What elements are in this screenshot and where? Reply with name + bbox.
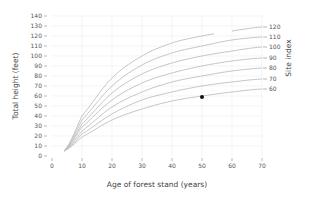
y-tick-label: 50: [34, 102, 42, 109]
site-index-curve-120: [64, 34, 214, 151]
y-tick-label: 80: [34, 72, 42, 79]
x-tick-label: 70: [258, 162, 266, 169]
y-tick-label: 30: [34, 122, 42, 129]
highlight-point: [200, 95, 204, 99]
y-tick-label: 20: [34, 132, 42, 139]
y-tick-label: 70: [34, 82, 42, 89]
site-index-chart: 0102030405060708090100110120130140 01020…: [0, 0, 310, 197]
x-tick-label: 60: [228, 162, 236, 169]
site-index-labels: 12011010090807060: [263, 23, 281, 92]
y-axis-ticks: 0102030405060708090100110120130140: [31, 12, 47, 159]
y-tick-label: 120: [31, 32, 43, 39]
y-tick-label: 140: [31, 12, 43, 19]
x-tick-label: 50: [198, 162, 206, 169]
y-tick-label: 60: [34, 92, 42, 99]
x-axis-ticks: 010203040506070: [50, 158, 266, 169]
y-tick-label: 90: [34, 62, 42, 69]
y-tick-label: 100: [31, 52, 43, 59]
y-tick-label: 40: [34, 112, 42, 119]
x-tick-label: 20: [108, 162, 116, 169]
y2-axis-title: Site index: [284, 39, 293, 77]
y-tick-label: 10: [34, 142, 42, 149]
site-index-label: 120: [269, 23, 281, 30]
y-axis-title: Total height (feet): [11, 53, 20, 121]
site-index-curve-120: [232, 27, 262, 31]
site-index-label: 60: [269, 85, 277, 92]
x-tick-label: 10: [78, 162, 86, 169]
site-index-label: 80: [269, 64, 277, 71]
y-tick-label: 130: [31, 22, 43, 29]
y-tick-label: 0: [38, 152, 42, 159]
site-index-label: 70: [269, 75, 277, 82]
x-axis-title: Age of forest stand (years): [107, 180, 207, 189]
site-index-label: 100: [269, 43, 281, 50]
site-index-label: 90: [269, 54, 277, 61]
site-index-label: 110: [269, 33, 281, 40]
y-tick-label: 110: [31, 42, 43, 49]
x-tick-label: 40: [168, 162, 176, 169]
highlight-point-layer: [200, 95, 204, 99]
x-tick-label: 0: [50, 162, 54, 169]
x-tick-label: 30: [138, 162, 146, 169]
